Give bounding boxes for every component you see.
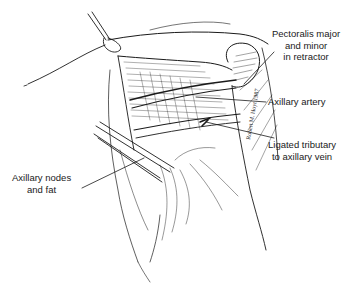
label-line: Ligated tributary bbox=[268, 139, 336, 151]
label-line: in retractor bbox=[272, 51, 340, 63]
label-axillary-nodes: Axillary nodes and fat bbox=[12, 172, 71, 195]
artist-signature: Robert M. Hoyt 1987 bbox=[245, 88, 260, 140]
suture-thread bbox=[28, 45, 105, 84]
wound-outline bbox=[118, 56, 232, 70]
axillary-vein bbox=[134, 114, 240, 130]
label-line: Axillary artery bbox=[268, 96, 326, 108]
surgical-clamp bbox=[94, 122, 174, 182]
hook-retractor bbox=[88, 12, 109, 40]
label-line: Pectoralis major bbox=[272, 28, 340, 40]
label-pectoralis: Pectoralis major and minor in retractor bbox=[272, 28, 340, 63]
label-line: and fat bbox=[12, 184, 71, 196]
label-axillary-artery: Axillary artery bbox=[268, 96, 326, 108]
label-ligated-tributary: Ligated tributary to axillary vein bbox=[268, 139, 336, 162]
label-line: to axillary vein bbox=[268, 151, 336, 163]
skin-flap-upper bbox=[108, 32, 268, 44]
label-line: and minor bbox=[272, 40, 340, 52]
label-line: Axillary nodes bbox=[12, 172, 71, 184]
